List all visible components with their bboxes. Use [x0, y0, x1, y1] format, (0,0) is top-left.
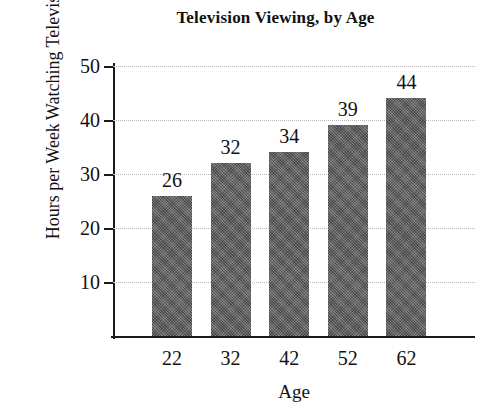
bar	[386, 98, 426, 336]
gridline	[113, 66, 475, 68]
y-axis-tick-label: 50	[80, 56, 100, 76]
y-axis-title-line-1: Hours per Week	[44, 123, 62, 239]
x-axis-tick-label: 62	[396, 348, 416, 368]
x-axis-tick-label: 22	[162, 348, 182, 368]
y-axis-tick-mark	[104, 174, 113, 176]
y-axis-title-line-2: Watching Television	[44, 0, 62, 120]
x-axis-tick-label: 52	[338, 348, 358, 368]
bar	[269, 152, 309, 336]
bar-value-label: 26	[162, 170, 182, 190]
y-axis-tick-label: 40	[80, 110, 100, 130]
y-axis-tick-label: 20	[80, 218, 100, 238]
x-axis-line	[111, 336, 475, 338]
y-axis-tick-label: 10	[80, 272, 100, 292]
bar-value-label: 39	[338, 99, 358, 119]
y-axis-tick-mark	[104, 66, 113, 68]
x-axis-title: Age	[113, 381, 475, 403]
bar-value-label: 34	[279, 126, 299, 146]
y-axis-tick-mark	[104, 228, 113, 230]
bar-value-label: 44	[396, 72, 416, 92]
y-axis-tick-mark	[104, 282, 113, 284]
chart-figure: Television Viewing, by Age Hours per Wee…	[0, 0, 503, 413]
plot-area: 1020304050 2632343944	[113, 66, 475, 336]
bar	[152, 196, 192, 336]
y-axis-title: Hours per Week Watching Television	[25, 0, 81, 221]
bar-value-label: 32	[221, 137, 241, 157]
x-axis-tick-label: 32	[221, 348, 241, 368]
bar	[328, 125, 368, 336]
y-axis-tick-mark	[104, 120, 113, 122]
y-axis-tick-label: 30	[80, 164, 100, 184]
x-axis-tick-label: 42	[279, 348, 299, 368]
bar	[211, 163, 251, 336]
